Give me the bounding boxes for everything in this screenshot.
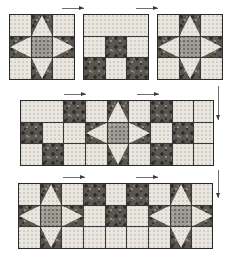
u21-r2-c3-light [63, 122, 85, 144]
unit-1-3-sawtooth-star-block[interactable] [157, 14, 223, 80]
star-corner-bl [158, 57, 180, 79]
u32-r1-c3-dark [126, 184, 148, 206]
arrow-top-left-icon [62, 6, 84, 11]
patch-r2-c1-light [84, 36, 106, 58]
u31-corner-tr [61, 184, 83, 206]
u22-corner-bl [86, 143, 108, 165]
u32-r1-c2-light [105, 184, 127, 206]
u23-r1-c2-light [172, 101, 194, 123]
star-corner-bl [10, 57, 32, 79]
u21-r2-c2-light [42, 122, 64, 144]
u33-corner-tl [149, 184, 171, 206]
u21-r3-c1-light [21, 143, 43, 165]
u23-r2-c3-light [193, 122, 214, 144]
patch-r3-c3-dark [126, 57, 148, 79]
quilt-diagram-canvas [0, 0, 236, 256]
arrow-top-right-icon [136, 6, 158, 11]
unit-1-2-nine-patch-unit[interactable] [83, 14, 149, 80]
u23-r1-c1-dark [151, 101, 173, 123]
u23-r3-c3-light [193, 143, 214, 165]
arrow-side-lower-icon [216, 170, 221, 198]
arrow-mid-right-icon [137, 92, 159, 97]
star-center-square [179, 36, 201, 58]
u31-corner-bl [19, 226, 41, 248]
u23-r2-c1-light [151, 122, 173, 144]
patch-r3-c1-dark [84, 57, 106, 79]
u21-r3-c3-light [63, 143, 85, 165]
u33-center-square [170, 205, 192, 227]
u23-r3-c1-dark [151, 143, 173, 165]
u22-corner-br [128, 143, 150, 165]
star-corner-br [52, 57, 74, 79]
row-2-joined-strip[interactable] [20, 100, 214, 166]
arrow-side-upper-icon [216, 86, 221, 120]
patch-r1-wide-light [84, 15, 148, 37]
u33-corner-bl [149, 226, 171, 248]
u31-corner-tl [19, 184, 41, 206]
u23-r3-c2-light [172, 143, 194, 165]
star-corner-tr [200, 15, 222, 37]
u32-r2-c3-light [126, 205, 148, 227]
u32-r3-c3-light [126, 226, 148, 248]
star-corner-tl [10, 15, 32, 37]
star-corner-tr [52, 15, 74, 37]
arrow-bottom-right-icon [136, 175, 158, 180]
u23-r2-c2-dark [172, 122, 194, 144]
star-corner-tl [158, 15, 180, 37]
u22-corner-tl [86, 101, 108, 123]
u32-r1-c1-dark [84, 184, 106, 206]
u32-r3-c1-light [84, 226, 106, 248]
star-corner-br [200, 57, 222, 79]
star-center-square [31, 36, 53, 58]
u32-r2-c2-dark [105, 205, 127, 227]
u22-center-square [107, 122, 129, 144]
u21-r3-c2-dark [42, 143, 64, 165]
u22-corner-tr [128, 101, 150, 123]
arrow-bottom-left-icon [63, 175, 85, 180]
u33-corner-br [191, 226, 213, 248]
patch-r2-c2-dark [105, 36, 127, 58]
row-3-joined-strip[interactable] [18, 183, 213, 249]
arrow-mid-left-icon [64, 92, 86, 97]
u32-r2-c1-light [84, 205, 106, 227]
patch-r2-c3-light [126, 36, 148, 58]
u31-center-square [40, 205, 62, 227]
u31-corner-br [61, 226, 83, 248]
unit-1-1-sawtooth-star-block[interactable] [9, 14, 75, 80]
u32-r3-c2-light [105, 226, 127, 248]
u21-r1-c3-dark [63, 101, 85, 123]
u33-corner-tr [191, 184, 213, 206]
u21-r2-c1-dark [21, 122, 43, 144]
u23-r1-c3-light [193, 101, 214, 123]
patch-r3-c2-light [105, 57, 127, 79]
